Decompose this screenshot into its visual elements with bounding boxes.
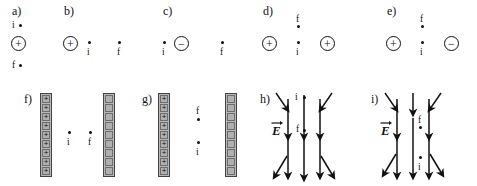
panel-f-point-i-label: i [67, 137, 70, 147]
plate-cell [227, 140, 235, 148]
panel-c: c) i − f [145, 0, 245, 88]
plate-cell [227, 149, 235, 157]
plate-cell: + [42, 167, 50, 175]
panel-e-charge-negative: − [444, 36, 459, 51]
panel-b-point-f-label: f [117, 47, 120, 57]
panel-d-charge-positive-left: + [262, 36, 277, 51]
plate-cell [227, 158, 235, 166]
panel-g-plate-right [225, 93, 237, 177]
plate-cell: + [42, 122, 50, 130]
panel-b-charge-positive: + [63, 36, 78, 51]
panel-g-point-i-dot [197, 141, 200, 144]
panel-b-letter: b) [64, 4, 74, 19]
panel-e-point-f-dot [421, 25, 424, 28]
panel-h-point-i-label: i [295, 92, 298, 102]
plate-cell: + [42, 95, 50, 103]
plate-cell [105, 95, 113, 103]
plate-cell [105, 149, 113, 157]
plate-cell: + [160, 131, 168, 139]
plate-cell: + [160, 140, 168, 148]
panel-e-point-i-dot [421, 41, 424, 44]
plate-cell [227, 131, 235, 139]
panel-h-point-f-label: f [296, 124, 299, 134]
plate-cell [227, 122, 235, 130]
panel-b-point-i-label: i [87, 47, 90, 57]
plate-cell [105, 113, 113, 121]
panel-c-charge-negative: − [174, 36, 189, 51]
plate-cell: + [42, 149, 50, 157]
plate-cell: + [160, 167, 168, 175]
panel-c-letter: c) [163, 4, 172, 19]
plate-cell [105, 158, 113, 166]
panel-b: b) + i f [60, 0, 145, 88]
plate-cell [105, 140, 113, 148]
panel-f-point-f-dot [89, 131, 92, 134]
plate-cell [227, 104, 235, 112]
panel-d-charge-positive-right: + [320, 36, 335, 51]
panel-f: f) + + + + + + + + + i f [22, 90, 140, 186]
plate-cell: + [160, 158, 168, 166]
panel-d-point-i-label: i [296, 47, 299, 57]
vector-arrow-icon [271, 120, 283, 126]
panel-g-point-i-label: i [196, 147, 199, 157]
vector-arrow-icon [380, 120, 392, 126]
panel-f-plate-right [103, 93, 115, 177]
panel-a-point-f-dot [19, 64, 22, 67]
panel-b-point-i-dot [88, 41, 91, 44]
panel-e-letter: e) [387, 4, 396, 19]
panel-g-point-f-dot [197, 118, 200, 121]
panel-g-point-f-label: f [196, 106, 199, 116]
panel-c-point-i-label: i [162, 47, 165, 57]
panel-a: a) i + f [0, 0, 60, 88]
panel-i-point-i-label: i [418, 162, 421, 172]
panel-h-field-label: E [272, 123, 281, 139]
panel-a-charge-positive: + [11, 36, 26, 51]
plate-cell [227, 167, 235, 175]
plate-cell: + [160, 149, 168, 157]
panel-d-point-i-dot [297, 41, 300, 44]
panel-i: i) E f i [363, 90, 477, 186]
panel-e-point-f-label: f [420, 14, 423, 24]
panel-f-plate-left-positive: + + + + + + + + + [40, 93, 52, 177]
plate-cell: + [42, 158, 50, 166]
plate-cell: + [160, 104, 168, 112]
plate-cell [105, 167, 113, 175]
plate-cell [105, 104, 113, 112]
panel-a-point-i-dot [19, 24, 22, 27]
plate-cell: + [42, 140, 50, 148]
plate-cell [227, 95, 235, 103]
panel-b-point-f-dot [118, 41, 121, 44]
panel-g: g) + + + + + + + + + f i [140, 90, 258, 186]
plate-cell [105, 122, 113, 130]
panel-e-charge-positive: + [386, 36, 401, 51]
plate-cell: + [42, 104, 50, 112]
panel-c-point-f-label: f [220, 47, 223, 57]
plate-cell: + [160, 113, 168, 121]
panel-c-point-i-dot [163, 41, 166, 44]
panel-e-point-i-label: i [420, 47, 423, 57]
plate-cell [105, 131, 113, 139]
panel-f-letter: f) [24, 92, 32, 107]
panel-e: e) f + i − [355, 0, 477, 88]
plate-cell: + [42, 113, 50, 121]
panel-a-point-i-label: i [12, 20, 15, 30]
plate-cell [227, 113, 235, 121]
panel-d-point-f-dot [297, 25, 300, 28]
panel-i-field-label: E [381, 123, 390, 139]
panel-f-point-f-label: f [88, 137, 91, 147]
panel-c-point-f-dot [221, 41, 224, 44]
plate-cell: + [160, 122, 168, 130]
panel-d-letter: d) [263, 4, 273, 19]
plate-cell: + [42, 131, 50, 139]
plate-cell: + [160, 95, 168, 103]
panel-a-letter: a) [12, 4, 21, 19]
panel-d: d) f + i + [245, 0, 355, 88]
panel-g-plate-left-positive: + + + + + + + + + [158, 93, 170, 177]
panel-g-letter: g) [142, 92, 152, 107]
panel-d-point-f-label: f [296, 14, 299, 24]
panel-f-point-i-dot [68, 131, 71, 134]
panel-i-point-f-label: f [418, 115, 421, 125]
panel-h: h) E i f [258, 90, 363, 186]
panel-a-point-f-label: f [12, 60, 15, 70]
